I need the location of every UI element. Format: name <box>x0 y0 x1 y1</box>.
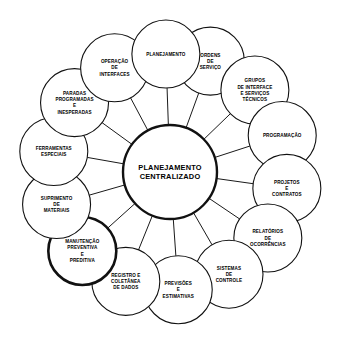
node-planejamento-label-line: PLANEJAMENTO <box>146 52 185 57</box>
node-grupos-de-interface-e-servicos-tecnicos-label-line: E SERVIÇOS <box>240 91 269 96</box>
node-programacao-label-line: PROGRAMAÇÃO <box>263 132 302 138</box>
node-projetos-e-contratos-label-line: CONTRATOS <box>272 192 302 197</box>
spoke-edge-grupos-de-interface-e-servicos-tecnicos <box>204 114 231 140</box>
node-sistemas-de-controle-label-line: SISTEMAS <box>217 266 241 271</box>
center-node-label-line: CENTRALIZADO <box>140 172 201 181</box>
node-grupos-de-interface-e-servicos-tecnicos-label-line: DE INTERFACE <box>237 85 272 90</box>
spoke-edge-sistemas-de-controle <box>194 213 213 245</box>
node-ferramentas-especiais-label-line: FERRAMENTAS <box>36 146 72 151</box>
spoke-edge-registro-e-coletanea-de-dados <box>139 216 153 250</box>
node-previsoes-e-estimativas-label-line: ESTIMATIVAS <box>163 294 194 299</box>
spoke-edge-programacao <box>215 146 250 157</box>
spoke-edge-manutencao-preventiva-e-preditiva <box>108 203 135 228</box>
node-manutencao-preventiva-e-preditiva-label-line: E <box>81 252 84 257</box>
node-ordens-de-servico-label-line: DE <box>207 59 214 64</box>
radial-diagram: ORDENSDESERVIÇOGRUPOSDE INTERFACEE SERVI… <box>0 0 339 343</box>
node-projetos-e-contratos-label-line: PROJETOS <box>274 180 300 185</box>
node-paradas-programadas-e-inesperadas-label-line: PARADAS <box>63 91 86 96</box>
node-grupos-de-interface-e-servicos-tecnicos-label-line: GRUPOS <box>245 78 266 83</box>
center-node-group: PLANEJAMENTOCENTRALIZADO <box>123 125 217 219</box>
node-paradas-programadas-e-inesperadas-label-line: INESPERADAS <box>57 110 91 115</box>
spoke-edge-ferramentas-especiais <box>87 157 123 163</box>
node-projetos-e-contratos-label-line: E <box>285 186 288 191</box>
spoke-edge-previsoes-e-estimativas <box>173 219 176 256</box>
node-operacao-de-interfaces-label-line: DE <box>111 65 118 70</box>
spoke-edge-relatorios-de-ocorrencias <box>209 198 240 219</box>
spoke-edge-suprimento-de-materiais <box>89 185 125 195</box>
node-relatorios-de-ocorrencias-label-line: OCORRÊNCIAS <box>250 240 286 247</box>
spoke-edge-projetos-e-contratos <box>217 179 254 184</box>
node-sistemas-de-controle-label-line: CONTROLE <box>216 278 243 283</box>
node-registro-e-coletanea-de-dados-label-line: DE DADOS <box>113 285 138 290</box>
node-ordens-de-servico-label-line: SERVIÇO <box>200 65 222 70</box>
node-planejamento[interactable]: PLANEJAMENTO <box>132 20 200 88</box>
node-operacao-de-interfaces-label-line: OPERAÇÃO <box>101 58 129 64</box>
node-grupos-de-interface-e-servicos-tecnicos-label-line: TÉCNICOS <box>243 95 268 102</box>
node-manutencao-preventiva-e-preditiva-label-line: PREVENTIVA <box>67 245 98 250</box>
spoke-edge-paradas-programadas-e-inesperadas <box>102 123 132 145</box>
node-paradas-programadas-e-inesperadas-label-line: E <box>73 103 76 108</box>
node-operacao-de-interfaces-label-line: INTERFACES <box>100 72 130 77</box>
node-relatorios-de-ocorrencias-label-line: DE <box>265 236 272 241</box>
node-registro-e-coletanea-de-dados-label-line: COLETÂNEA <box>111 278 141 284</box>
center-node-label-line: PLANEJAMENTO <box>138 163 201 172</box>
node-previsoes-e-estimativas-label-line: PREVISÕES <box>165 280 192 286</box>
node-registro-e-coletanea-de-dados-label-line: REGISTRO E <box>111 273 140 278</box>
node-manutencao-preventiva-e-preditiva-label-line: PREDITIVA <box>70 258 96 263</box>
node-ordens-de-servico-label-line: ORDENS <box>200 53 220 58</box>
node-sistemas-de-controle-label-line: DE <box>226 272 233 277</box>
node-suprimento-de-materiais-label-line: SUPRIMENTO <box>41 196 73 201</box>
node-suprimento-de-materiais-label-line: MATERIAIS <box>44 208 70 213</box>
spoke-edge-planejamento <box>167 88 168 125</box>
node-ferramentas-especiais-label-line: ESPECIAIS <box>41 152 66 157</box>
spoke-edge-operacao-de-interfaces <box>131 98 148 131</box>
node-previsoes-e-estimativas-label-line: E <box>177 287 180 292</box>
node-manutencao-preventiva-e-preditiva-label-line: MANUTENÇÃO <box>65 238 100 244</box>
center-node[interactable]: PLANEJAMENTOCENTRALIZADO <box>123 125 217 219</box>
node-relatorios-de-ocorrencias-label-line: RELATÓRIOS <box>252 227 283 234</box>
spoke-edge-ordens-de-servico <box>186 93 199 128</box>
node-suprimento-de-materiais-label-line: DE <box>53 202 60 207</box>
node-paradas-programadas-e-inesperadas-label-line: PROGRAMADAS <box>55 97 93 102</box>
diagram-canvas: ORDENSDESERVIÇOGRUPOSDE INTERFACEE SERVI… <box>0 0 339 343</box>
